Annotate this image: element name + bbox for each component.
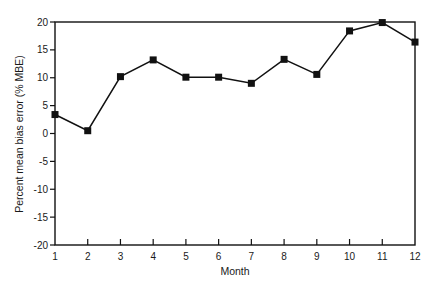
data-point-marker [281,56,288,63]
x-tick-label: 12 [409,251,421,262]
x-tick-label: 5 [183,251,189,262]
y-tick-label: 20 [37,17,49,28]
x-tick-label: 8 [281,251,287,262]
x-axis: 123456789101112 [52,239,421,262]
x-tick-label: 11 [377,251,388,262]
y-tick-label: -5 [39,156,48,167]
plot-frame [55,22,415,245]
x-tick-label: 3 [118,251,124,262]
x-tick-label: 6 [216,251,222,262]
data-point-marker [215,74,222,81]
x-tick-label: 7 [249,251,255,262]
y-tick-label: 15 [37,44,49,55]
y-tick-label: -10 [34,184,49,195]
series-line [55,23,415,131]
line-chart: 20151050-5-10-15-20 123456789101112 Mont… [0,0,440,289]
data-point-marker [346,27,353,34]
y-tick-label: 5 [42,100,48,111]
y-axis-title: Percent mean bias error (% MBE) [13,55,25,213]
x-tick-label: 9 [314,251,320,262]
data-point-marker [52,111,59,118]
x-tick-label: 2 [85,251,91,262]
y-tick-label: 10 [37,72,49,83]
y-tick-label: -15 [34,212,49,223]
y-tick-label: 0 [42,128,48,139]
x-tick-label: 4 [150,251,156,262]
y-tick-label: -20 [34,240,49,251]
plot-border [55,22,415,245]
y-axis: 20151050-5-10-15-20 [34,17,55,251]
data-point-marker [248,80,255,87]
data-point-marker [412,39,419,46]
data-point-marker [84,127,91,134]
x-axis-title: Month [220,265,249,277]
data-series [52,19,419,134]
data-point-marker [182,74,189,81]
data-point-marker [313,71,320,78]
data-point-marker [117,73,124,80]
data-point-marker [379,19,386,26]
data-point-marker [150,56,157,63]
x-tick-label: 10 [344,251,356,262]
x-tick-label: 1 [52,251,58,262]
